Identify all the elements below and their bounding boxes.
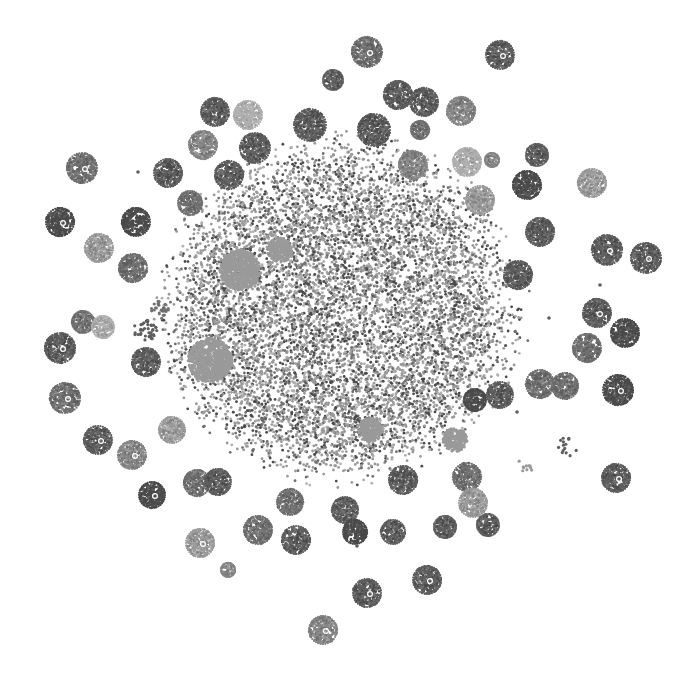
- cluster-graph-canvas: [0, 0, 694, 673]
- network-visualization: [0, 0, 694, 673]
